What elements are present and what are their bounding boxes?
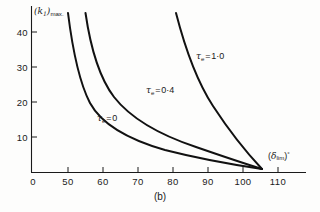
x-axis-title: (δlim)° <box>268 150 290 161</box>
y-tick-label-10: 10 <box>8 132 28 143</box>
curve-annotation-tau-e-1-0: τe = 1·0 <box>196 51 224 62</box>
panel-caption: (b) <box>0 191 320 202</box>
x-tick-label-100: 100 <box>234 176 251 187</box>
y-tick-label-30: 30 <box>8 62 28 73</box>
x-axis-origin-label: 0 <box>30 176 36 187</box>
x-tick-label-80: 80 <box>167 176 178 187</box>
y-tick-label-40: 40 <box>8 27 28 38</box>
curve-annotation-tau-e-0-4: τe = 0·4 <box>146 85 174 96</box>
y-tick-label-20: 20 <box>8 97 28 108</box>
x-tick-label-110: 110 <box>270 176 286 187</box>
x-tick-marks <box>68 167 278 173</box>
x-tick-label-60: 60 <box>97 176 108 187</box>
x-tick-label-70: 70 <box>132 176 143 187</box>
figure-panel: 0 50 60 70 80 90 100 110 40 30 20 10 (k1… <box>0 0 320 212</box>
y-axis-title: (k1)max. <box>34 6 64 17</box>
x-tick-label-90: 90 <box>202 176 213 187</box>
curve-annotation-tau-e-0: τe = 0 <box>97 113 117 124</box>
y-tick-marks <box>32 32 38 137</box>
x-tick-label-50: 50 <box>62 176 73 187</box>
